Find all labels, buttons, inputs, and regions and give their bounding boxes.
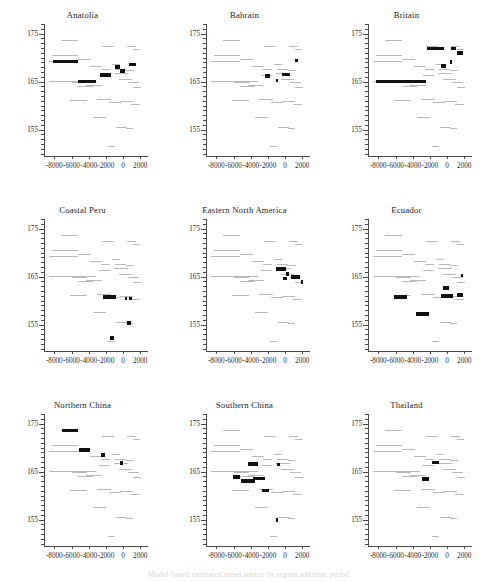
plot-area: 155165175-8000-6000-4000-200002000 <box>368 219 472 351</box>
y-tick-minor <box>203 115 206 116</box>
y-tick-minor <box>41 529 44 530</box>
y-tick-minor <box>41 443 44 444</box>
background-segment <box>259 99 273 100</box>
x-tick-label: -6000 <box>387 357 404 365</box>
y-tick-minor <box>41 53 44 54</box>
y-tick-label: 175 <box>27 225 38 233</box>
background-segment <box>417 507 430 508</box>
highlight-segment <box>376 80 426 84</box>
background-segment <box>133 477 141 478</box>
x-tick-label: -4000 <box>80 162 97 170</box>
highlight-segment <box>432 461 440 465</box>
x-axis-line <box>206 546 310 547</box>
y-tick-minor <box>41 301 44 302</box>
background-segment <box>443 469 456 470</box>
background-segment <box>240 281 255 282</box>
background-segment <box>97 489 111 490</box>
y-tick-minor <box>365 481 368 482</box>
background-segment <box>457 439 464 440</box>
x-tick <box>234 156 235 159</box>
y-tick-minor <box>41 91 44 92</box>
background-segment <box>396 277 411 278</box>
background-segment <box>264 241 276 242</box>
x-tick <box>216 351 217 354</box>
y-tick-minor <box>365 149 368 150</box>
x-tick-label: -8000 <box>46 552 63 560</box>
y-tick-minor <box>203 529 206 530</box>
y-tick-minor <box>41 149 44 150</box>
background-segment <box>264 436 276 437</box>
y-tick-major <box>201 424 206 425</box>
background-segment <box>450 323 457 324</box>
y-tick-minor <box>203 539 206 540</box>
background-segment <box>101 264 110 265</box>
x-tick-label: 2000 <box>133 552 147 560</box>
y-tick-minor <box>41 58 44 59</box>
y-tick-minor <box>365 272 368 273</box>
background-segment <box>264 46 276 47</box>
x-tick-label: -4000 <box>80 357 97 365</box>
x-tick <box>378 546 379 549</box>
y-tick-minor <box>41 419 44 420</box>
y-tick-minor <box>365 500 368 501</box>
x-tick-label: -8000 <box>46 162 63 170</box>
background-segment <box>108 146 116 147</box>
highlight-segment <box>79 448 89 452</box>
background-segment <box>86 85 102 86</box>
background-segment <box>126 70 135 71</box>
y-tick-major <box>201 472 206 473</box>
x-tick <box>89 351 90 354</box>
x-tick-label: -2000 <box>259 552 276 560</box>
x-tick <box>251 546 252 549</box>
y-tick-minor <box>203 496 206 497</box>
background-segment <box>119 79 132 80</box>
background-segment <box>49 256 78 257</box>
x-tick <box>123 546 124 549</box>
background-segment <box>86 475 102 476</box>
background-segment <box>78 476 93 477</box>
background-segment <box>261 465 272 466</box>
background-segment <box>289 241 298 242</box>
background-segment <box>432 536 440 537</box>
x-tick-label: -8000 <box>208 162 225 170</box>
background-segment <box>109 102 121 103</box>
background-segment <box>115 459 125 460</box>
background-segment <box>376 445 402 446</box>
y-tick-minor <box>365 349 368 350</box>
background-segment <box>293 104 302 105</box>
background-segment <box>293 299 302 300</box>
y-tick-minor <box>41 144 44 145</box>
x-tick <box>140 546 141 549</box>
y-tick-minor <box>41 329 44 330</box>
y-tick-major <box>201 34 206 35</box>
highlight-segment <box>301 280 304 284</box>
y-tick-minor <box>41 272 44 273</box>
x-tick-label: 0 <box>283 357 287 365</box>
x-axis-line <box>368 546 472 547</box>
background-segment <box>240 449 253 450</box>
x-axis-line <box>44 351 148 352</box>
y-tick-label: 155 <box>189 321 200 329</box>
background-segment <box>282 101 294 102</box>
background-segment <box>252 261 263 262</box>
y-tick-minor <box>203 219 206 220</box>
background-segment <box>131 494 140 495</box>
x-tick <box>413 351 414 354</box>
x-tick-label: -4000 <box>404 552 421 560</box>
panel-title: Bahrain <box>162 10 327 20</box>
y-tick-minor <box>365 62 368 63</box>
y-tick-minor <box>365 515 368 516</box>
background-segment <box>252 456 263 457</box>
background-segment <box>109 492 121 493</box>
x-tick-label: 2000 <box>457 357 471 365</box>
x-tick <box>464 351 465 354</box>
y-tick-label: 175 <box>189 225 200 233</box>
highlight-segment <box>461 274 464 278</box>
background-segment <box>90 66 101 67</box>
x-tick <box>89 546 90 549</box>
y-tick-minor <box>41 339 44 340</box>
y-tick-label: 175 <box>351 420 362 428</box>
y-tick-minor <box>41 110 44 111</box>
x-tick <box>464 156 465 159</box>
background-segment <box>108 536 116 537</box>
